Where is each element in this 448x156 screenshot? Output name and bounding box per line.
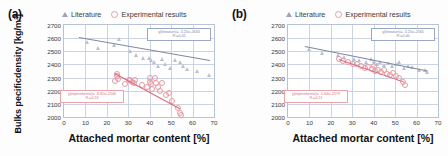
- panel-b-legend: Literature Experimental results: [286, 8, 444, 21]
- data-point-literature: [117, 37, 121, 41]
- circle-marker-icon: [111, 11, 118, 18]
- gridline-horizontal: [64, 64, 214, 65]
- x-axis-tick-label: 10: [306, 119, 313, 126]
- y-axis-tick-label: 2000: [47, 114, 61, 121]
- y-axis-tick-label: 2100: [47, 100, 61, 107]
- legend-item-literature: Literature: [286, 10, 325, 19]
- gridline-horizontal: [288, 104, 438, 105]
- legend-label-experimental: Experimental results: [121, 10, 186, 19]
- y-axis-tick-label: 2700: [47, 22, 61, 29]
- y-axis-tick-label: 2300: [271, 74, 285, 81]
- panel-a-y-axis-title: Bulks pecificdensity [kg/m³]: [10, 18, 28, 130]
- data-point-literature: [85, 40, 89, 44]
- equation-box-literature: y(literature)= -3.25x+2565R²=0.40: [371, 28, 435, 41]
- panel-b-plot-area: 0102030405060702000210022002300240025002…: [287, 24, 439, 118]
- legend-item-experimental: Experimental results: [335, 10, 410, 19]
- y-axis-tick-label: 2100: [271, 100, 285, 107]
- y-axis-tick-label: 2500: [271, 48, 285, 55]
- triangle-marker-icon: [62, 12, 68, 17]
- x-axis-tick-label: 30: [125, 119, 132, 126]
- data-point-literature: [128, 49, 132, 53]
- y-axis-tick-label: 2600: [271, 35, 285, 42]
- data-point-literature: [195, 69, 199, 73]
- y-axis-tick-label: 2500: [47, 48, 61, 55]
- r-squared-text: R²=0.40: [374, 34, 432, 38]
- gridline-horizontal: [288, 51, 438, 52]
- data-point-experimental: [159, 80, 165, 86]
- gridline-horizontal: [64, 104, 214, 105]
- y-axis-tick-label: 2000: [271, 114, 285, 121]
- triangle-marker-icon: [286, 12, 292, 17]
- gridline-horizontal: [288, 78, 438, 79]
- legend-item-literature: Literature: [62, 10, 101, 19]
- x-axis-tick-label: 0: [286, 119, 289, 126]
- data-point-literature: [178, 60, 182, 64]
- equation-box-experimental: y(experimental)= -8.85x+2546R²=0.53: [60, 90, 124, 103]
- data-point-literature: [320, 51, 324, 55]
- data-point-literature: [163, 62, 167, 66]
- r-squared-text: R²=0.53: [63, 96, 121, 100]
- equation-box-experimental: y(experimental)= -5.64x+2579R²=0.51: [284, 90, 348, 103]
- data-point-literature: [168, 66, 172, 70]
- panel-b-label: (b): [232, 7, 246, 21]
- y-axis-tick-label: 2400: [271, 61, 285, 68]
- x-axis-tick-label: 10: [82, 119, 89, 126]
- panel-b-x-axis-title: Attached mortar content [%]: [279, 132, 447, 144]
- circle-marker-icon: [335, 11, 342, 18]
- panel-a: (a) Literature Experimental results Bulk…: [0, 0, 224, 156]
- data-point-literature: [96, 46, 100, 50]
- equation-box-literature: y(literature)= -3.25x+2633R²=0.42: [147, 28, 211, 41]
- gridline-horizontal: [64, 78, 214, 79]
- y-axis-tick-label: 2700: [271, 22, 285, 29]
- legend-item-experimental: Experimental results: [111, 10, 186, 19]
- panel-a-y-axis-title-text: Bulks pecificdensity [kg/m³]: [14, 14, 23, 134]
- data-point-literature: [160, 57, 164, 61]
- x-axis-tick-label: 0: [62, 119, 65, 126]
- r-squared-text: R²=0.51: [287, 96, 345, 100]
- figure-container: (a) Literature Experimental results Bulk…: [0, 0, 448, 156]
- data-point-experimental: [149, 86, 155, 92]
- x-axis-tick-label: 40: [146, 119, 153, 126]
- panel-a-x-axis-title: Attached mortar content [%]: [55, 132, 223, 144]
- r-squared-text: R²=0.42: [150, 34, 208, 38]
- x-axis-tick-label: 60: [189, 119, 196, 126]
- y-axis-tick-label: 2400: [47, 61, 61, 68]
- legend-label-literature: Literature: [295, 10, 325, 19]
- data-point-experimental: [402, 82, 408, 88]
- data-point-literature: [185, 67, 189, 71]
- legend-label-literature: Literature: [71, 10, 101, 19]
- panel-a-plot-area: 0102030405060702000210022002300240025002…: [63, 24, 215, 118]
- x-axis-tick-label: 50: [168, 119, 175, 126]
- data-point-literature: [156, 64, 160, 68]
- x-axis-tick-label: 60: [413, 119, 420, 126]
- data-point-literature: [207, 73, 211, 77]
- legend-label-experimental: Experimental results: [345, 10, 410, 19]
- y-axis-tick-label: 2200: [47, 87, 61, 94]
- panel-b: (b) Literature Experimental results Satu…: [224, 0, 448, 156]
- data-point-experimental: [178, 112, 184, 118]
- y-axis-tick-label: 2600: [47, 35, 61, 42]
- x-axis-tick-label: 40: [370, 119, 377, 126]
- x-axis-tick-label: 50: [392, 119, 399, 126]
- y-axis-tick-label: 2300: [47, 74, 61, 81]
- data-point-literature: [134, 53, 138, 57]
- x-axis-tick-label: 70: [435, 119, 442, 126]
- data-point-literature: [141, 56, 145, 60]
- x-axis-tick-label: 20: [103, 119, 110, 126]
- x-axis-tick-label: 20: [327, 119, 334, 126]
- gridline-horizontal: [64, 51, 214, 52]
- data-point-experimental: [166, 90, 172, 96]
- x-axis-tick-label: 30: [349, 119, 356, 126]
- panel-a-legend: Literature Experimental results: [62, 8, 220, 21]
- x-axis-tick-label: 70: [211, 119, 218, 126]
- y-axis-tick-label: 2200: [271, 87, 285, 94]
